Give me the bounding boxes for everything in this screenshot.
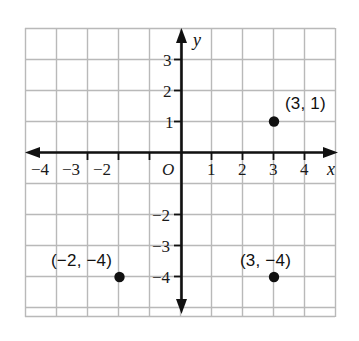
x-axis-arrow-left [25,147,40,158]
x-tick-label-4: 4 [300,161,309,178]
x-tick-label-1: 1 [207,161,216,178]
point-label-3-neg4: (3, −4) [240,252,291,269]
data-point [269,116,279,126]
y-tick-label-neg4: −4 [152,269,170,286]
y-tick-label-neg2: −2 [152,207,170,224]
y-axis-label: y [193,31,201,49]
y-tick-label-neg3: −3 [152,238,170,255]
x-tick-label-neg4: −4 [31,161,49,178]
x-axis-label: x [327,160,335,178]
x-tick-label-2: 2 [238,161,247,178]
coordinate-plane-figure: −4 −3 −2 1 2 3 4 3 2 1 −2 −3 −4 O y x (3… [0,0,359,341]
origin-label: O [162,161,174,178]
x-tick-label-neg2: −2 [93,161,111,178]
y-tick-label-1: 1 [165,114,174,131]
x-tick-label-neg3: −3 [62,161,80,178]
y-tick-label-3: 3 [163,52,172,69]
y-tick-label-2: 2 [163,83,172,100]
x-tick-label-3: 3 [269,161,278,178]
y-axis-arrow-down [176,299,187,314]
point-label-neg2-neg4: (−2, −4) [51,252,112,269]
data-point [269,272,279,282]
point-label-3-1: (3, 1) [285,95,326,112]
data-point [114,272,124,282]
y-axis-arrow-up [176,28,187,43]
